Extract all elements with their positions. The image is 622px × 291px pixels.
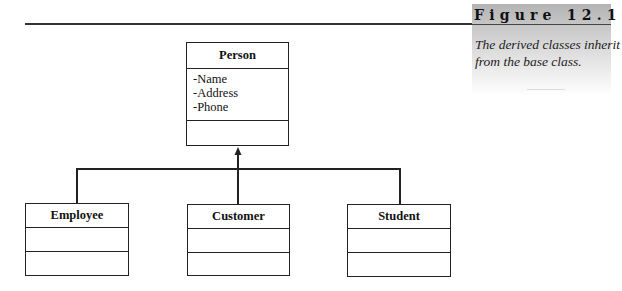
class-name-section: Customer — [188, 205, 289, 229]
class-attribute: -Phone — [193, 100, 288, 114]
uml-class-person: Person -Name -Address -Phone — [186, 42, 289, 146]
class-name-section: Student — [348, 205, 450, 229]
class-attributes-section — [26, 228, 128, 252]
class-methods-section — [187, 121, 288, 145]
uml-class-employee: Employee — [25, 203, 129, 276]
figure-caption: The derived classes inherit from the bas… — [475, 36, 615, 70]
figure-heading-underline — [472, 24, 611, 25]
uml-class-student: Student — [347, 204, 451, 277]
figure-caption-line-1: The derived classes inherit — [475, 36, 615, 53]
class-methods-section — [26, 252, 128, 275]
figure-heading: Figure 12.1 — [474, 5, 614, 25]
connector-vertical-customer — [237, 168, 239, 204]
top-rule — [25, 23, 473, 25]
class-attributes-section — [188, 229, 289, 253]
class-name: Employee — [51, 208, 104, 223]
connector-vertical-employee — [76, 168, 78, 204]
class-methods-section — [348, 253, 450, 276]
class-name: Person — [219, 48, 256, 63]
class-attribute: -Name — [193, 72, 288, 86]
class-name-section: Employee — [26, 204, 128, 228]
figure-caption-line-2: from the base class. — [475, 53, 615, 70]
class-name-section: Person — [187, 43, 288, 69]
class-name: Student — [378, 209, 420, 224]
class-name: Customer — [212, 209, 265, 224]
class-attribute: -Address — [193, 86, 288, 100]
scan-artifact — [527, 89, 565, 90]
connector-horizontal-bus — [76, 168, 401, 170]
uml-class-customer: Customer — [187, 204, 290, 276]
connector-vertical-student — [399, 168, 401, 204]
class-methods-section — [188, 253, 289, 275]
class-attributes-section — [348, 229, 450, 253]
class-attributes-section: -Name -Address -Phone — [187, 69, 288, 121]
